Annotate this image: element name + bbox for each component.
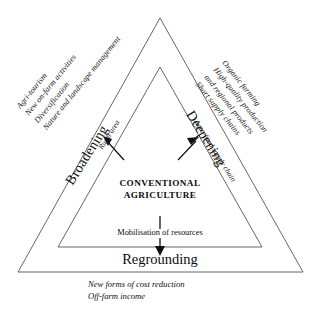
conventional-agriculture-label: CONVENTIONAL AGRICULTURE <box>0 178 320 201</box>
regrounding-items-list: New forms of cost reduction Off-farm inc… <box>88 278 185 303</box>
core-line-1: CONVENTIONAL <box>0 178 320 190</box>
regrounding-label: Regrounding <box>0 251 320 267</box>
rural-development-triangle-diagram: Agri-tourism New on-farm activities Dive… <box>0 0 320 313</box>
mobilisation-of-resources-label: Mobilisation of resources <box>0 228 320 237</box>
deepening-arrow <box>178 137 199 160</box>
core-line-2: AGRICULTURE <box>0 190 320 202</box>
regrounding-item-1: Off-farm income <box>88 290 185 302</box>
regrounding-item-0: New forms of cost reduction <box>88 278 185 290</box>
